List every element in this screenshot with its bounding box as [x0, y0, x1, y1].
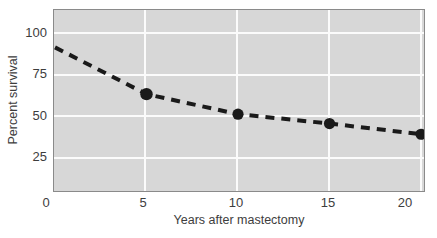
y-tick-label-25: 25 [0, 150, 47, 163]
x-tick-label-20: 20 [385, 196, 425, 210]
x-axis-title: Years after mastectomy [53, 213, 425, 227]
survival-chart-figure: Percent survival 100 75 50 25 0 5 10 15 … [0, 0, 437, 238]
y-tick-label-75: 75 [0, 67, 47, 80]
x-tick-label-5: 5 [123, 196, 163, 210]
y-tick-label-50: 50 [0, 109, 47, 122]
data-point-year-20 [415, 129, 425, 140]
plot-area [53, 9, 425, 192]
y-axis-title: Percent survival [6, 40, 20, 160]
data-point-year-10 [232, 109, 243, 120]
y-tick-label-100: 100 [0, 26, 47, 39]
data-series-survival [54, 10, 425, 192]
x-tick-label-15: 15 [308, 196, 348, 210]
data-point-year-15 [324, 118, 335, 129]
survival-line [55, 47, 421, 134]
data-point-year-5 [140, 88, 152, 100]
x-tick-label-10: 10 [216, 196, 256, 210]
x-tick-label-0: 0 [26, 196, 66, 210]
survival-markers [140, 88, 425, 140]
